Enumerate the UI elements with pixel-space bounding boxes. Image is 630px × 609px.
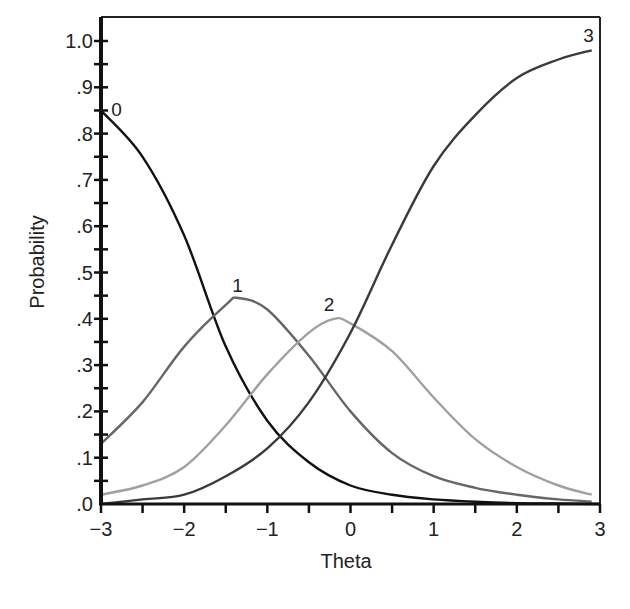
y-tick-label: .3 [76,354,93,376]
curve-labels: 0123 [111,25,594,315]
x-tick-label: −3 [90,518,113,540]
plot-frame [101,17,600,504]
curve-label-3: 3 [583,25,594,46]
y-tick-label: .5 [76,262,93,284]
curve-category-0 [101,110,600,504]
y-axis-title: Probability [26,215,48,308]
y-tick-label: .9 [76,76,93,98]
x-axis: −3−2−10123 [90,504,606,540]
x-tick-label: 3 [594,518,605,540]
curve-label-2: 2 [324,294,335,315]
y-axis: .0.1.2.3.4.5.6.7.8.91.0 [65,17,108,515]
x-axis-title: Theta [320,550,372,572]
y-tick-label: .1 [76,447,93,469]
y-tick-label: .8 [76,123,93,145]
x-tick-label: 1 [428,518,439,540]
curve-category-3 [101,50,592,504]
y-tick-label: 1.0 [65,30,93,52]
y-tick-label: .4 [76,308,93,330]
y-tick-label: .0 [76,493,93,515]
curve-label-0: 0 [111,99,122,120]
x-tick-label: 0 [345,518,356,540]
curve-label-1: 1 [232,275,243,296]
y-tick-label: .6 [76,215,93,237]
curves [101,50,600,504]
x-tick-label: −2 [173,518,196,540]
curve-category-1 [101,298,592,502]
y-tick-label: .7 [76,169,93,191]
chart: .0.1.2.3.4.5.6.7.8.91.0 −3−2−10123 0123 … [0,0,630,609]
x-tick-label: 2 [511,518,522,540]
y-tick-label: .2 [76,400,93,422]
x-tick-label: −1 [256,518,279,540]
